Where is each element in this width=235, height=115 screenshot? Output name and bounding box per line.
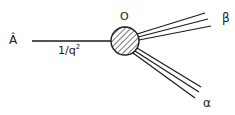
beta-lines xyxy=(137,13,211,40)
propagator-exponent: 2 xyxy=(76,43,80,51)
alpha-lines xyxy=(133,48,201,98)
propagator-label: 1/q2 xyxy=(58,44,80,56)
incoming-label: Â xyxy=(9,34,17,46)
propagator-text: 1/q xyxy=(58,44,76,57)
diagram-canvas xyxy=(0,0,235,115)
vertex-blob xyxy=(111,27,139,55)
vertex-label: O xyxy=(120,11,129,22)
alpha-label: α xyxy=(203,97,211,109)
beta-label: β xyxy=(222,12,230,24)
